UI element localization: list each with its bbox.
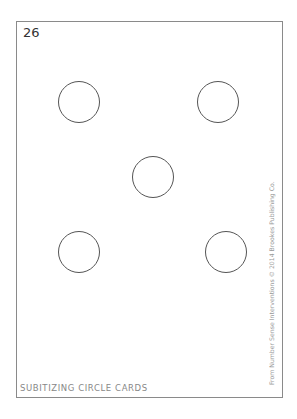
circle-bottom-right — [205, 231, 247, 273]
circle-top-left — [58, 81, 100, 123]
card-number: 26 — [23, 25, 40, 40]
copyright-credit: From Number Sense Interventions © 2014 B… — [268, 181, 275, 385]
circle-bottom-left — [58, 231, 100, 273]
circle-center — [132, 156, 174, 198]
subitizing-card — [16, 21, 283, 398]
circle-top-right — [197, 81, 239, 123]
card-set-label: SUBITIZING CIRCLE CARDS — [20, 383, 148, 393]
